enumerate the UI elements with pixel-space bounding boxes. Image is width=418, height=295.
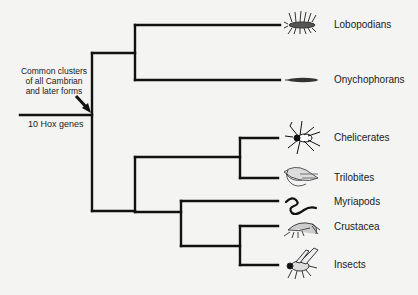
taxon-label-myriapods: Myriapods bbox=[334, 196, 380, 207]
millipede-icon bbox=[286, 198, 316, 214]
taxon-label-chelicerates: Chelicerates bbox=[334, 132, 390, 143]
lobopodian-icon bbox=[284, 11, 316, 34]
taxon-label-crustacea: Crustacea bbox=[334, 221, 380, 232]
taxon-label-onychophorans: Onychophorans bbox=[334, 74, 405, 85]
phylogenetic-tree bbox=[0, 0, 418, 295]
fly-icon bbox=[287, 248, 318, 279]
taxon-label-lobopodians: Lobopodians bbox=[334, 19, 391, 30]
spider-icon bbox=[285, 121, 320, 154]
shrimp-icon bbox=[284, 223, 320, 238]
arrow-icon bbox=[76, 96, 91, 113]
annotation-common-clusters: Common clusters of all Cambrian and late… bbox=[16, 66, 92, 96]
taxon-label-trilobites: Trilobites bbox=[334, 172, 374, 183]
root-label: 10 Hox genes bbox=[28, 119, 84, 129]
taxon-label-insects: Insects bbox=[334, 259, 366, 270]
velvet-worm-icon bbox=[285, 78, 318, 82]
trilobite-icon bbox=[284, 167, 318, 186]
